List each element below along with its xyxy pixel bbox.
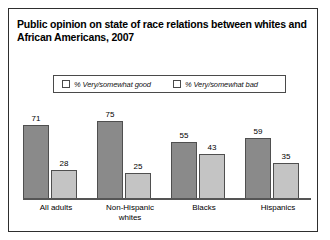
- legend-label-good: % Very/somewhat good: [74, 80, 151, 89]
- bar-rect[interactable]: [51, 170, 77, 199]
- bar-rect[interactable]: [97, 121, 123, 199]
- bar-value-label: 43: [208, 143, 217, 153]
- bar-rect[interactable]: [199, 154, 225, 199]
- bar-item[interactable]: 59: [245, 101, 271, 199]
- x-axis-label-line: Non-Hispanic: [106, 203, 154, 212]
- bar-item[interactable]: 43: [199, 101, 225, 199]
- bar-value-label: 59: [254, 127, 263, 137]
- x-axis-label-line: Blacks: [192, 203, 216, 212]
- bar-item[interactable]: 35: [273, 101, 299, 199]
- bar-rect[interactable]: [125, 173, 151, 199]
- bar-item[interactable]: 71: [23, 101, 49, 199]
- bar-value-label: 25: [134, 162, 143, 172]
- x-axis-line: [23, 198, 311, 200]
- x-axis-label-line: Hispanics: [261, 203, 296, 212]
- bar-item[interactable]: 28: [51, 101, 77, 199]
- chart-title-line-2: African Americans, 2007: [17, 31, 134, 43]
- bar-rect[interactable]: [273, 163, 299, 199]
- legend-label-bad: % Very/somewhat bad: [185, 80, 258, 89]
- x-axis-label-line: whites: [119, 213, 142, 222]
- chart-plot-area: 7128752555435935: [23, 101, 309, 199]
- bar-item[interactable]: 75: [97, 101, 123, 199]
- x-axis-label: Blacks: [167, 203, 241, 213]
- legend-entry-good: % Very/somewhat good: [62, 76, 151, 92]
- x-axis-label-line: All adults: [40, 203, 72, 212]
- bar-rect[interactable]: [23, 125, 49, 199]
- legend-swatch-good-icon: [62, 80, 70, 88]
- bar-value-label: 71: [32, 114, 41, 124]
- bar-group: 7128: [23, 101, 89, 199]
- chart-title-line-1: Public opinion on state of race relation…: [17, 18, 307, 30]
- bar-item[interactable]: 25: [125, 101, 151, 199]
- x-axis-label: All adults: [19, 203, 93, 213]
- bar-rect[interactable]: [171, 142, 197, 199]
- chart-legend: % Very/somewhat good % Very/somewhat bad: [53, 75, 286, 93]
- bar-group: 7525: [97, 101, 163, 199]
- bar-rect[interactable]: [245, 138, 271, 199]
- bar-item[interactable]: 55: [171, 101, 197, 199]
- legend-swatch-bad-icon: [173, 80, 181, 88]
- bar-value-label: 75: [106, 110, 115, 120]
- x-axis-label: Hispanics: [241, 203, 315, 213]
- x-axis-label: Non-Hispanicwhites: [93, 203, 167, 223]
- bar-value-label: 35: [282, 152, 291, 162]
- bar-group: 5543: [171, 101, 237, 199]
- bar-value-label: 28: [60, 159, 69, 169]
- chart-title: Public opinion on state of race relation…: [17, 18, 309, 44]
- chart-figure: Public opinion on state of race relation…: [8, 8, 318, 232]
- bar-group: 5935: [245, 101, 311, 199]
- legend-entry-bad: % Very/somewhat bad: [173, 76, 258, 92]
- bar-value-label: 55: [180, 131, 189, 141]
- x-axis-category-labels: All adultsNon-HispanicwhitesBlacksHispan…: [23, 203, 311, 231]
